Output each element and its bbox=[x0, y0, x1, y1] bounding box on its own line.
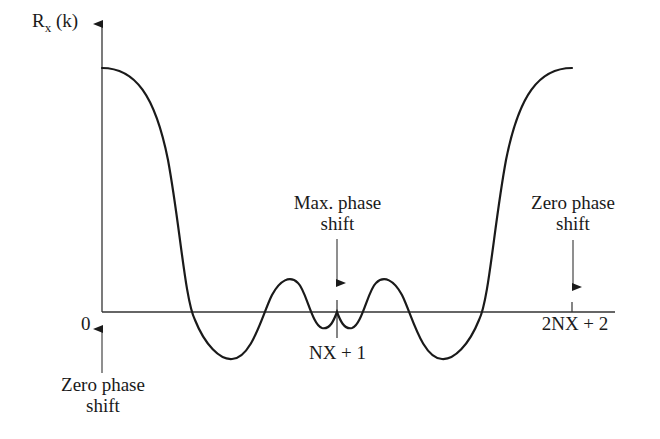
annotation-zero-phase-left: Zero phase shift bbox=[48, 374, 158, 416]
annotation-max-phase: Max. phase shift bbox=[280, 192, 395, 234]
annotation-line1: Zero phase bbox=[518, 192, 628, 213]
y-label-subscript: x bbox=[45, 20, 52, 35]
origin-label: 0 bbox=[81, 313, 91, 334]
y-axis-label: Rx (k) bbox=[32, 10, 78, 33]
tick-label-mid: NX + 1 bbox=[290, 342, 385, 363]
annotation-line2: shift bbox=[280, 213, 395, 234]
annotation-line1: Max. phase bbox=[280, 192, 395, 213]
annotation-zero-phase-right: Zero phase shift bbox=[518, 192, 628, 234]
annotation-line2: shift bbox=[48, 395, 158, 416]
y-label-arg: (k) bbox=[56, 10, 78, 31]
tick-label-end: 2NX + 2 bbox=[520, 313, 630, 334]
annotation-line1: Zero phase bbox=[48, 374, 158, 395]
annotation-line2: shift bbox=[518, 213, 628, 234]
y-label-main: R bbox=[32, 10, 45, 31]
